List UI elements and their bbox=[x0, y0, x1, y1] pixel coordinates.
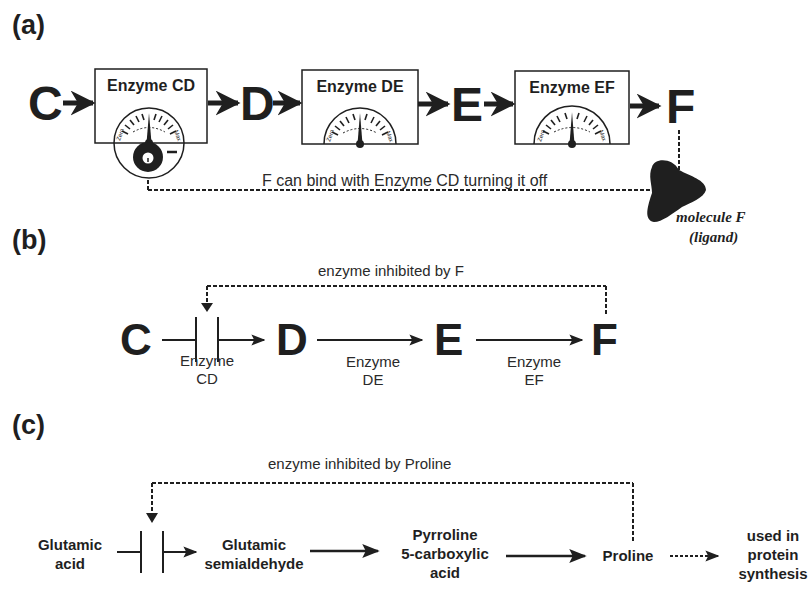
metabolite-f: F bbox=[666, 83, 695, 131]
enzyme-title: Enzyme CD bbox=[95, 77, 207, 95]
enzyme-ef: Enzyme EF bbox=[515, 71, 629, 144]
node-line: 5-carboxylic bbox=[380, 544, 510, 563]
node-protein-synthesis: used in protein synthesis bbox=[728, 526, 812, 583]
metabolite-d: D bbox=[240, 80, 275, 128]
node-line: protein bbox=[728, 545, 812, 564]
metabolite-f: F bbox=[591, 318, 618, 362]
feedback-caption-b: enzyme inhibited by F bbox=[318, 262, 464, 279]
enzyme-label-line2: CD bbox=[167, 370, 247, 388]
feedback-caption-c: enzyme inhibited by Proline bbox=[268, 455, 451, 472]
enzyme-de: Enzyme DE bbox=[302, 70, 418, 144]
node-glutamic-acid: Glutamic acid bbox=[25, 535, 115, 573]
node-line: Proline bbox=[593, 546, 663, 565]
node-line: acid bbox=[25, 554, 115, 573]
binding-site-icon bbox=[133, 142, 177, 172]
metabolite-e: E bbox=[434, 318, 463, 362]
panel-label-b: (b) bbox=[12, 225, 46, 256]
node-line: Glutamic bbox=[25, 535, 115, 554]
panel-label-c: (c) bbox=[12, 410, 45, 441]
node-line: synthesis bbox=[728, 564, 812, 583]
node-proline: Proline bbox=[593, 546, 663, 565]
enzyme-label-line2: EF bbox=[494, 371, 574, 389]
enzyme-title: Enzyme DE bbox=[302, 78, 418, 96]
node-glutamic-semialdehyde: Glutamic semialdehyde bbox=[196, 535, 312, 573]
enzyme-cd: Enzyme CD bbox=[95, 69, 207, 143]
enzyme-title: Enzyme EF bbox=[515, 79, 629, 97]
feedback-line-b bbox=[207, 286, 606, 315]
metabolite-e: E bbox=[451, 81, 483, 129]
inhibition-arrowhead bbox=[201, 303, 213, 312]
node-line: Pyrroline bbox=[380, 525, 510, 544]
metabolite-c: C bbox=[28, 80, 63, 128]
enzyme-label-line1: Enzyme bbox=[167, 352, 247, 370]
feedback-caption-a: F can bind with Enzyme CD turning it off bbox=[262, 172, 547, 190]
enzyme-label-line2: DE bbox=[333, 371, 413, 389]
node-line: acid bbox=[380, 563, 510, 582]
metabolite-d: D bbox=[276, 318, 308, 362]
node-pyrroline-5-carboxylic-acid: Pyrroline 5-carboxylic acid bbox=[380, 525, 510, 582]
enzyme-label-line1: Enzyme bbox=[333, 353, 413, 371]
metabolite-c: C bbox=[120, 318, 152, 362]
ligand-label: molecule F bbox=[676, 209, 746, 226]
node-line: used in bbox=[728, 526, 812, 545]
panel-label-a: (a) bbox=[12, 10, 45, 41]
inhibition-arrowhead bbox=[146, 513, 158, 523]
enzyme-label-cd: Enzyme CD bbox=[167, 352, 247, 388]
node-line: Glutamic bbox=[196, 535, 312, 554]
enzyme-label-de: Enzyme DE bbox=[333, 353, 413, 389]
node-line: semialdehyde bbox=[196, 554, 312, 573]
enzyme-label-line1: Enzyme bbox=[494, 353, 574, 371]
ligand-sublabel: (ligand) bbox=[689, 229, 738, 246]
enzyme-label-ef: Enzyme EF bbox=[494, 353, 574, 389]
